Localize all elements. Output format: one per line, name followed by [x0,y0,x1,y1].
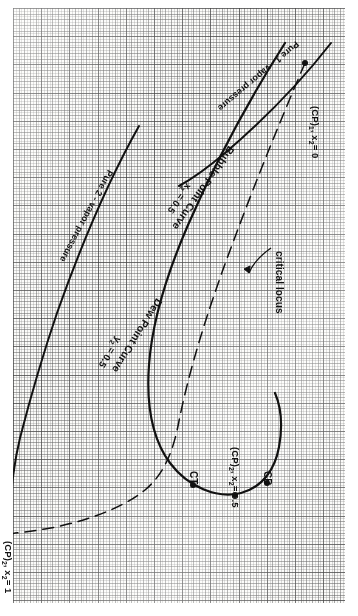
label-cp2: (CP)2, x2= 1 [1,541,14,593]
figure-page: (CP)1, x2= 0 Pure 1 - vapor pressure Bub… [0,0,358,616]
annotation-layer: (CP)1, x2= 0 Pure 1 - vapor pressure Bub… [13,8,345,603]
label-cp2half-text: (CP) [230,447,241,467]
label-cp2-cond-val: = 1 [3,580,14,594]
label-cb: CB [262,471,273,486]
label-cp2-cond: , x [3,565,14,576]
label-pure-2-vapor-pressure: Pure 2 - vapor pressure [58,168,115,264]
label-cp2half-cond: , x [230,471,241,482]
label-cp1-cond-val: = 0 [310,145,321,159]
label-cp1-text: (CP) [310,106,321,126]
label-cp2half-cond-val: = 0.5 [230,486,241,508]
label-cp1-cond: , x [310,130,321,141]
label-cp2-half: (CP)2, x2= 0.5 [228,447,241,508]
label-cp1: (CP)1, x2= 0 [308,106,321,158]
label-pure-1-vapor-pressure: Pure 1 - vapor pressure [216,39,301,113]
label-critical-locus: critical locus [274,251,285,314]
label-dew-point-curve: Dew Point Curve [110,297,165,375]
label-cp2-text: (CP) [3,541,14,561]
label-ct: CT [188,471,199,485]
